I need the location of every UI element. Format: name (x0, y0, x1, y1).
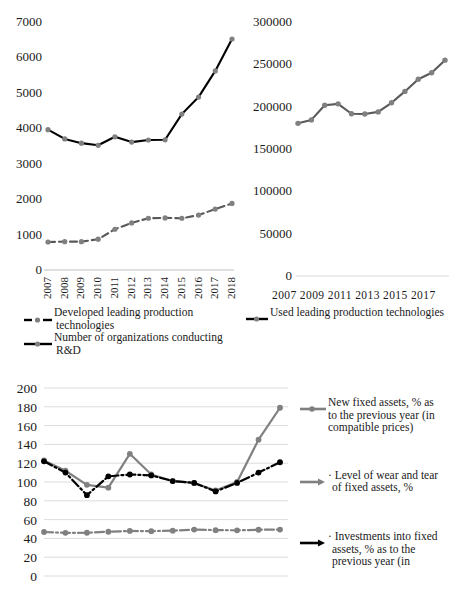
chart-fixed-assets: 020406080100120140160180200 (0, 380, 300, 600)
data-point (322, 103, 327, 108)
legend-line-1: · Investments into fixed (328, 530, 438, 542)
solid-marker-key-icon (246, 310, 268, 328)
data-point (234, 480, 240, 486)
legend-bottom: New fixed assets, % as to the previous y… (300, 396, 453, 569)
legend-item-organizations-rnd[interactable]: Number of organizations conducting R&D (24, 331, 239, 356)
chart-developed-technologies: 01000200030004000500060007000 (0, 12, 240, 282)
ytick-label: 140 (17, 437, 38, 452)
ytick-label: 100000 (253, 183, 292, 198)
legend-line-1: · Level of wear and tear (328, 469, 438, 481)
ytick-label: 120 (17, 456, 38, 471)
ytick-label: 7000 (16, 14, 42, 29)
ytick-label: 50000 (260, 226, 293, 241)
data-point (63, 530, 69, 536)
ytick-label: 180 (17, 400, 38, 415)
data-point (105, 473, 111, 479)
topright-xtick-row: 2007 2009 2011 2013 2015 2017 (272, 289, 436, 301)
solid-marker-key-icon (24, 335, 52, 353)
data-point (277, 459, 283, 465)
legend-item-developed-technologies[interactable]: Developed leading production technologie… (24, 306, 239, 331)
legend-label-developed-technologies: Developed leading production technologie… (54, 306, 193, 331)
data-point (63, 470, 69, 476)
legend-label-investments: · Investments into fixed assets, % as to… (328, 530, 438, 568)
data-point (127, 472, 133, 478)
xtick-label-2010: 2010 (92, 277, 103, 299)
data-point (96, 143, 101, 148)
data-point (256, 470, 262, 476)
data-point (191, 527, 197, 533)
legend-line-2: R&D (56, 344, 81, 357)
data-point (179, 216, 184, 221)
data-point (170, 478, 176, 484)
series-line-0 (48, 39, 232, 145)
data-point (79, 239, 84, 244)
ytick-label: 0 (30, 569, 37, 584)
ytick-label: 200000 (253, 99, 292, 114)
data-point (191, 480, 197, 486)
ytick-label: 160 (17, 419, 38, 434)
data-point (62, 136, 67, 141)
data-point (375, 109, 380, 114)
data-point (148, 473, 154, 479)
data-point (96, 237, 101, 242)
legend-line-1: New fixed assets, % as (328, 396, 434, 408)
data-point (429, 70, 434, 75)
xtick-label-2009: 2009 (75, 277, 86, 299)
data-point (162, 215, 167, 220)
legend-item-new-fixed-assets[interactable]: New fixed assets, % as to the previous y… (300, 396, 453, 434)
data-point (256, 527, 262, 533)
legend-item-used-technologies[interactable]: Used leading production technologies (246, 306, 453, 328)
data-point (256, 437, 262, 443)
data-point (229, 201, 234, 206)
chart-used-technologies: 050000100000150000200000250000300000 (240, 12, 453, 282)
legend-topright: Used leading production technologies (246, 306, 453, 329)
data-point (162, 137, 167, 142)
ytick-label: 150000 (253, 141, 292, 156)
ytick-label: 5000 (16, 85, 42, 100)
data-point (416, 77, 421, 82)
chart-topleft-canvas: 01000200030004000500060007000 (0, 12, 240, 282)
data-point (362, 111, 367, 116)
data-point (127, 451, 133, 457)
data-point (79, 141, 84, 146)
data-point (442, 57, 447, 62)
data-point (349, 111, 354, 116)
ytick-label: 200 (17, 381, 38, 396)
legend-item-wear-and-tear[interactable]: · Level of wear and tear of fixed assets… (300, 469, 453, 494)
legend-line-1: Developed leading production (54, 306, 193, 318)
legend-label-new-fixed-assets: New fixed assets, % as to the previous y… (328, 396, 435, 434)
data-point (129, 140, 134, 145)
data-point (146, 216, 151, 221)
ytick-label: 40 (24, 531, 38, 546)
data-point (234, 527, 240, 533)
data-point (213, 489, 219, 495)
data-point (127, 528, 133, 534)
data-point (105, 529, 111, 535)
data-point (129, 220, 134, 225)
chart-topright-canvas: 050000100000150000200000250000300000 (240, 12, 453, 282)
legend-line-3: previous year (in (332, 555, 410, 568)
ytick-label: 1000 (16, 227, 42, 242)
dashed-marker-key-icon (24, 311, 52, 329)
data-point (148, 528, 154, 534)
data-point (45, 127, 50, 132)
chart-bottom-canvas: 020406080100120140160180200 (0, 380, 300, 600)
legend-label-organizations-rnd: Number of organizations conducting R&D (54, 331, 223, 356)
ytick-label: 3000 (16, 156, 42, 171)
xtick-label-2013: 2013 (142, 277, 153, 299)
data-point (146, 137, 151, 142)
legend-item-investments[interactable]: · Investments into fixed assets, % as to… (300, 530, 453, 568)
data-point (196, 95, 201, 100)
series-line-1 (44, 530, 280, 533)
data-point (112, 134, 117, 139)
data-point (41, 458, 47, 464)
dashdot-marker-key-icon (300, 473, 326, 491)
ytick-label: 6000 (16, 49, 42, 64)
arrow-black-key-icon (300, 534, 326, 552)
xtick-label-2018: 2018 (226, 277, 237, 299)
data-point (335, 101, 340, 106)
xtick-label-2007: 2007 (42, 277, 53, 299)
ytick-label: 0 (36, 262, 43, 277)
data-point (112, 227, 117, 232)
data-point (170, 528, 176, 534)
